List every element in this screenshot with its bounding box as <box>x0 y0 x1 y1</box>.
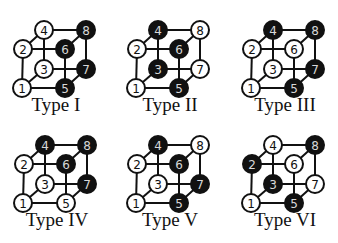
vertex-label: 6 <box>175 43 183 57</box>
vertex-label: 7 <box>83 178 91 192</box>
vertex-label: 2 <box>19 43 27 57</box>
vertex-label: 6 <box>61 43 69 57</box>
type-label: Type II <box>142 94 197 115</box>
cube-6: 12345678Type VI <box>242 136 324 230</box>
vertex-label: 7 <box>196 63 204 77</box>
vertex-label: 3 <box>154 63 162 77</box>
cube-types-figure: 12345678Type I12345678Type II12345678Typ… <box>0 0 338 243</box>
vertex-label: 3 <box>269 178 277 192</box>
vertex-label: 3 <box>154 178 162 192</box>
vertex-label: 8 <box>196 139 204 153</box>
vertex-label: 4 <box>41 139 49 153</box>
vertex-label: 7 <box>82 63 90 77</box>
vertex-label: 8 <box>196 24 204 38</box>
type-label: Type I <box>32 94 81 115</box>
vertex-label: 4 <box>40 24 48 38</box>
type-label: Type V <box>142 209 198 230</box>
cube-5: 12345678Type V <box>127 136 209 230</box>
cube-2: 12345678Type II <box>127 21 209 115</box>
vertex-label: 6 <box>62 158 70 172</box>
vertex-label: 4 <box>154 139 162 153</box>
vertex-label: 2 <box>248 158 256 172</box>
vertex-label: 1 <box>132 82 140 96</box>
vertex-label: 4 <box>154 24 162 38</box>
vertex-label: 8 <box>311 24 319 38</box>
vertex-label: 7 <box>311 63 319 77</box>
vertex-label: 8 <box>311 139 319 153</box>
vertex-label: 8 <box>82 24 90 38</box>
cube-4: 12345678Type IV <box>14 136 96 230</box>
vertex-label: 2 <box>248 43 256 57</box>
type-label: Type IV <box>26 209 89 230</box>
vertex-label: 3 <box>40 63 48 77</box>
vertex-label: 3 <box>41 178 49 192</box>
vertex-label: 6 <box>175 158 183 172</box>
vertex-label: 2 <box>133 43 141 57</box>
vertex-label: 2 <box>20 158 28 172</box>
cube-1: 12345678Type I <box>13 21 95 115</box>
vertex-label: 7 <box>311 178 319 192</box>
vertex-label: 1 <box>132 197 140 211</box>
vertex-label: 4 <box>269 139 277 153</box>
vertex-label: 3 <box>269 63 277 77</box>
vertex-label: 6 <box>290 43 298 57</box>
type-label: Type VI <box>254 209 316 230</box>
vertex-label: 7 <box>196 178 204 192</box>
cube-3: 12345678Type III <box>242 21 324 115</box>
vertex-label: 2 <box>133 158 141 172</box>
vertex-label: 8 <box>83 139 91 153</box>
vertex-label: 6 <box>290 158 298 172</box>
type-label: Type III <box>254 94 315 115</box>
vertex-label: 1 <box>18 82 26 96</box>
vertex-label: 4 <box>269 24 277 38</box>
